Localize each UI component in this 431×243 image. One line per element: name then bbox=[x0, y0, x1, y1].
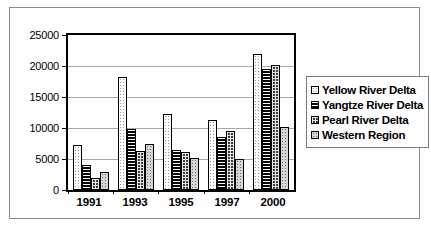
bar-group-2000 bbox=[249, 35, 294, 190]
bar-1995-western-region bbox=[190, 158, 199, 190]
bar-group-1991 bbox=[68, 35, 113, 190]
legend-swatch-white-dotted bbox=[311, 86, 319, 94]
legend-label: Western Region bbox=[322, 129, 405, 141]
bar-1991-pearl-river-delta bbox=[91, 178, 100, 190]
bar-1997-yellow-river-delta bbox=[208, 120, 217, 190]
legend-item-yellow-river-delta: Yellow River Delta bbox=[311, 82, 423, 97]
y-axis-tick-label: 5000 bbox=[35, 153, 59, 165]
x-axis-tick bbox=[68, 190, 69, 194]
x-axis-tick bbox=[204, 190, 205, 194]
chart-legend: Yellow River DeltaYangtze River DeltaPea… bbox=[306, 76, 429, 148]
bar-2000-yangtze-river-delta bbox=[262, 69, 271, 190]
legend-label: Yangtze River Delta bbox=[322, 99, 423, 111]
x-axis-label-1997: 1997 bbox=[204, 196, 250, 208]
x-axis-label-1993: 1993 bbox=[112, 196, 158, 208]
x-axis-tick bbox=[113, 190, 114, 194]
bar-group-1995 bbox=[158, 35, 203, 190]
y-axis-tick-label: 20000 bbox=[29, 60, 59, 72]
bar-2000-western-region bbox=[280, 127, 289, 190]
y-axis-tick-label: 15000 bbox=[29, 91, 59, 103]
bar-groups bbox=[68, 35, 294, 190]
x-axis-label-1991: 1991 bbox=[66, 196, 112, 208]
bar-1991-yangtze-river-delta bbox=[82, 165, 91, 190]
legend-swatch-black-horizontal-stripes bbox=[311, 101, 319, 109]
x-axis-label-1995: 1995 bbox=[158, 196, 204, 208]
bar-1997-western-region bbox=[235, 159, 244, 190]
bar-group-1993 bbox=[113, 35, 158, 190]
legend-swatch-gray-dotted bbox=[311, 131, 319, 139]
y-axis-tick-label: 25000 bbox=[29, 29, 59, 41]
legend-swatch-dark-checkered bbox=[311, 116, 319, 124]
bar-group-1997 bbox=[204, 35, 249, 190]
bar-1991-western-region bbox=[100, 172, 109, 190]
legend-item-yangtze-river-delta: Yangtze River Delta bbox=[311, 97, 423, 112]
y-axis-tick-label: 10000 bbox=[29, 122, 59, 134]
bar-1993-yangtze-river-delta bbox=[127, 129, 136, 190]
bar-1993-yellow-river-delta bbox=[118, 77, 127, 190]
x-axis-label-2000: 2000 bbox=[250, 196, 296, 208]
bar-1991-yellow-river-delta bbox=[73, 145, 82, 190]
plot-area: 0500010000150002000025000 bbox=[66, 33, 296, 192]
bar-1995-pearl-river-delta bbox=[181, 152, 190, 190]
bar-1997-pearl-river-delta bbox=[226, 131, 235, 190]
bar-1993-pearl-river-delta bbox=[136, 151, 145, 190]
bar-1997-yangtze-river-delta bbox=[217, 137, 226, 190]
x-axis-tick bbox=[249, 190, 250, 194]
legend-label: Pearl River Delta bbox=[322, 114, 408, 126]
legend-item-pearl-river-delta: Pearl River Delta bbox=[311, 112, 423, 127]
chart-figure: 0500010000150002000025000 19911993199519… bbox=[9, 7, 420, 219]
y-axis-tick-label: 0 bbox=[53, 184, 59, 196]
legend-item-western-region: Western Region bbox=[311, 127, 423, 142]
bar-1995-yangtze-river-delta bbox=[172, 150, 181, 190]
bar-2000-pearl-river-delta bbox=[271, 65, 280, 190]
legend-label: Yellow River Delta bbox=[322, 84, 416, 96]
x-axis-labels: 19911993199519972000 bbox=[66, 196, 296, 208]
bar-1995-yellow-river-delta bbox=[163, 114, 172, 190]
bar-2000-yellow-river-delta bbox=[253, 54, 262, 190]
bar-1993-western-region bbox=[145, 144, 154, 191]
x-axis-tick bbox=[158, 190, 159, 194]
